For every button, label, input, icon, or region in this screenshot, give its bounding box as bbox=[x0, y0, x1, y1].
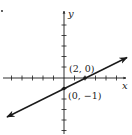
graph-line bbox=[7, 58, 127, 118]
bullet-dot bbox=[1, 10, 3, 12]
coordinate-plot: x y (2, 0) (0, −1) bbox=[0, 0, 132, 135]
point-2-0-label: (2, 0) bbox=[69, 63, 95, 74]
point-0-neg1-label: (0, −1) bbox=[68, 90, 102, 101]
point-2-0 bbox=[83, 76, 87, 80]
y-axis-label: y bbox=[67, 8, 74, 19]
x-axis-label: x bbox=[122, 80, 128, 91]
point-0-neg1 bbox=[62, 87, 66, 91]
